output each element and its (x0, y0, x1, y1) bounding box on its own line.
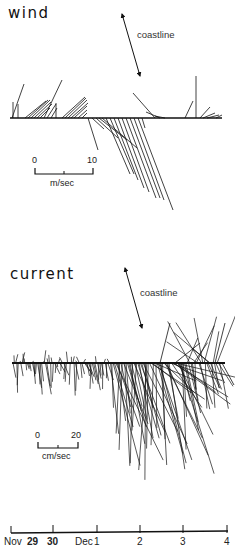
current-vector (73, 356, 75, 363)
wind-vector (126, 118, 156, 198)
current-vector (49, 355, 50, 363)
wind-vector (114, 118, 138, 180)
wind-vector (130, 118, 160, 198)
time-axis-label: 3 (180, 536, 186, 547)
current-vector (215, 363, 219, 388)
current-vector (220, 363, 229, 409)
time-axis-label: 1 (94, 536, 100, 547)
wind-panel-title: wind (8, 4, 49, 22)
wind-vector (134, 118, 164, 200)
current-vector (44, 350, 46, 363)
current-coastline-arrow-icon (125, 268, 142, 328)
current-vector (16, 354, 18, 363)
current-vector (66, 352, 67, 363)
current-vector (52, 363, 53, 382)
wind-stick-plot (10, 76, 222, 210)
wind-vector (118, 118, 144, 188)
wind-coastline-arrow-icon (122, 14, 140, 76)
current-vector (65, 363, 66, 382)
time-axis (11, 525, 228, 533)
current-vector (36, 363, 37, 374)
current-vector (76, 363, 77, 391)
wind-vector (142, 118, 145, 128)
current-scale-bar (38, 442, 78, 448)
time-axis-label: 30 (47, 536, 58, 547)
current-vector (69, 363, 70, 385)
current-vector (82, 363, 85, 374)
time-axis-label: Nov (4, 536, 22, 547)
current-scale-unit: cm/sec (42, 451, 71, 461)
current-vector (81, 363, 82, 378)
current-scale-max: 20 (71, 430, 81, 440)
current-vector (217, 311, 235, 363)
wind-vector (185, 101, 193, 118)
current-vector (13, 363, 16, 378)
current-vector (51, 363, 52, 388)
current-vector (74, 363, 75, 396)
current-vector (39, 363, 40, 384)
wind-scale-max: 10 (87, 155, 97, 165)
current-vector (95, 363, 100, 390)
wind-coastline-label: coastline (137, 29, 175, 40)
current-vector (17, 363, 18, 385)
time-axis-label: 4 (224, 536, 230, 547)
current-scale-zero: 0 (35, 430, 40, 440)
wind-vector (44, 80, 62, 118)
wind-vector (106, 118, 130, 174)
time-axis-label: Dec (75, 536, 93, 547)
wind-scale-bar (35, 168, 93, 174)
time-axis-line (11, 531, 228, 533)
current-coastline-label: coastline (140, 287, 178, 298)
current-vector (167, 342, 198, 363)
current-vector (30, 363, 31, 371)
wind-vector (200, 107, 210, 118)
time-axis-label: 29 (27, 536, 38, 547)
time-axis-label: 2 (137, 536, 143, 547)
wind-vector (47, 104, 56, 118)
wind-scale-zero: 0 (32, 155, 37, 165)
current-vector (119, 363, 122, 450)
current-vector (26, 363, 27, 370)
wind-vector (146, 112, 160, 118)
wind-vector (88, 118, 98, 150)
current-panel-title: current (10, 265, 75, 283)
wind-scale-unit: m/sec (50, 178, 74, 188)
current-vector (21, 363, 23, 376)
wind-vector (110, 118, 134, 174)
wind-vector (71, 103, 88, 118)
current-vector (46, 363, 52, 394)
current-vector (95, 356, 96, 363)
current-vector (42, 363, 44, 381)
